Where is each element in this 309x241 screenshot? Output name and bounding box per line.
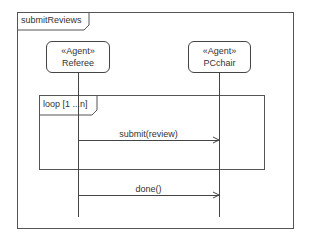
lifeline-name: PCchair [189,57,250,69]
lifeline-name: Referee [47,57,109,69]
frame-label: submitReviews [21,15,82,25]
message-done [79,195,219,196]
message-label-done: done() [78,184,219,194]
message-submit-review [79,140,219,141]
loop-fragment-label: loop [1 ...n] [43,99,88,109]
lifeline-pcchair [219,72,220,217]
lifeline-head-pcchair: «Agent» PCchair [188,41,251,73]
stereotype-label: «Agent» [189,45,250,57]
stereotype-label: «Agent» [47,45,109,57]
message-label-submit-review: submit(review) [78,129,219,139]
lifeline-head-referee: «Agent» Referee [46,41,110,73]
